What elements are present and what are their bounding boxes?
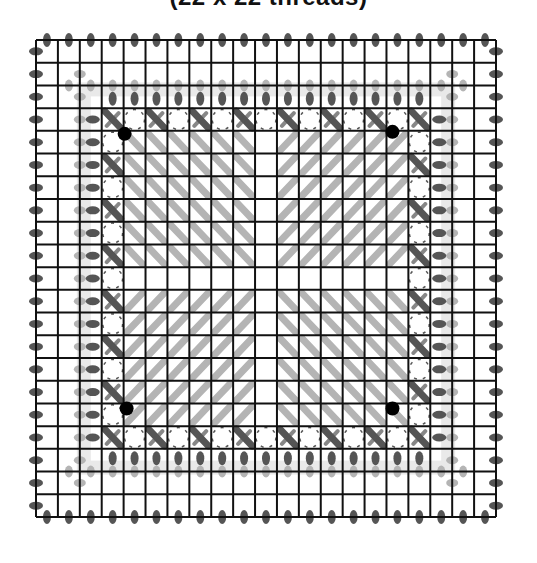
tent-stitch bbox=[170, 384, 186, 401]
band-stitch bbox=[306, 92, 314, 106]
tent-stitch bbox=[302, 157, 318, 174]
open-hole bbox=[409, 132, 429, 152]
tent-stitch bbox=[324, 202, 340, 219]
tent-stitch bbox=[346, 406, 362, 423]
band-stitch bbox=[432, 343, 446, 351]
band-stitch bbox=[131, 451, 139, 465]
open-hole bbox=[103, 178, 123, 198]
open-hole bbox=[344, 110, 364, 130]
tent-stitch bbox=[149, 361, 165, 378]
tent-stitch bbox=[346, 384, 362, 401]
tent-stitch bbox=[368, 225, 384, 242]
band-stitch bbox=[86, 116, 100, 124]
open-hole bbox=[103, 359, 123, 379]
corner-dot-bottom-left bbox=[120, 401, 134, 415]
band-stitch bbox=[109, 451, 117, 465]
tent-stitch bbox=[170, 338, 186, 355]
tent-stitch bbox=[389, 316, 405, 333]
band-stitch bbox=[350, 451, 358, 465]
open-hole bbox=[168, 428, 188, 448]
open-hole bbox=[409, 359, 429, 379]
band-stitch bbox=[131, 92, 139, 106]
tent-stitch bbox=[192, 202, 208, 219]
tent-stitch bbox=[389, 157, 405, 174]
dark-stitches bbox=[29, 33, 503, 524]
stitch-diagram bbox=[0, 0, 537, 563]
band-stitch bbox=[86, 275, 100, 283]
tent-stitch bbox=[149, 384, 165, 401]
open-hole bbox=[409, 314, 429, 334]
band-stitch bbox=[86, 252, 100, 260]
corner-dot-top-right bbox=[385, 125, 399, 139]
tent-stitch bbox=[368, 338, 384, 355]
tent-stitch bbox=[389, 293, 405, 310]
corner-dot-top-left bbox=[118, 127, 132, 141]
tent-stitch bbox=[302, 406, 318, 423]
band-stitch bbox=[432, 161, 446, 169]
tent-stitch bbox=[214, 406, 230, 423]
tent-stitch bbox=[302, 202, 318, 219]
open-hole bbox=[103, 314, 123, 334]
tent-stitch bbox=[170, 316, 186, 333]
tent-stitch bbox=[127, 293, 143, 310]
band-stitch bbox=[152, 451, 160, 465]
tent-stitch bbox=[214, 225, 230, 242]
tent-stitch bbox=[214, 384, 230, 401]
tent-stitch bbox=[149, 134, 165, 151]
tent-stitch bbox=[280, 406, 296, 423]
tent-stitch bbox=[127, 384, 143, 401]
tent-stitch bbox=[149, 157, 165, 174]
tent-stitch bbox=[389, 338, 405, 355]
band-stitch bbox=[86, 343, 100, 351]
corner-dot-bottom-right bbox=[385, 401, 399, 415]
tent-stitch bbox=[127, 202, 143, 219]
tent-stitch bbox=[368, 361, 384, 378]
tent-stitch bbox=[280, 361, 296, 378]
open-hole bbox=[409, 405, 429, 425]
tent-stitch bbox=[170, 247, 186, 264]
open-hole bbox=[103, 269, 123, 289]
band-stitch bbox=[262, 92, 270, 106]
tent-stitch bbox=[324, 134, 340, 151]
tent-stitch bbox=[236, 316, 252, 333]
tent-stitch bbox=[280, 338, 296, 355]
tent-stitch bbox=[324, 384, 340, 401]
band-stitch bbox=[393, 451, 401, 465]
tent-stitch bbox=[389, 202, 405, 219]
tent-stitch bbox=[127, 338, 143, 355]
tent-stitch bbox=[280, 134, 296, 151]
tent-stitch bbox=[346, 293, 362, 310]
tent-stitch bbox=[192, 247, 208, 264]
band-stitch bbox=[86, 206, 100, 214]
band-stitch bbox=[86, 434, 100, 442]
tent-stitch bbox=[346, 157, 362, 174]
tent-stitch bbox=[302, 179, 318, 196]
tent-stitch bbox=[346, 338, 362, 355]
tent-stitch bbox=[149, 338, 165, 355]
tent-stitch bbox=[302, 293, 318, 310]
tent-stitch bbox=[280, 316, 296, 333]
tent-stitch bbox=[368, 157, 384, 174]
band-stitch bbox=[372, 451, 380, 465]
tent-stitch bbox=[127, 179, 143, 196]
tent-stitch bbox=[192, 361, 208, 378]
tent-stitch bbox=[346, 225, 362, 242]
tent-stitch bbox=[368, 316, 384, 333]
band-stitch bbox=[432, 320, 446, 328]
tent-stitch bbox=[389, 384, 405, 401]
tent-stitch bbox=[192, 384, 208, 401]
band-stitch bbox=[432, 116, 446, 124]
band-stitch bbox=[240, 92, 248, 106]
band-stitch bbox=[86, 320, 100, 328]
tent-stitch bbox=[368, 202, 384, 219]
open-hole bbox=[256, 110, 276, 130]
tent-stitch bbox=[127, 316, 143, 333]
open-hole bbox=[409, 178, 429, 198]
open-hole bbox=[344, 428, 364, 448]
band-stitch bbox=[328, 92, 336, 106]
tent-stitch bbox=[346, 202, 362, 219]
band-stitch bbox=[328, 451, 336, 465]
band-stitch bbox=[415, 451, 423, 465]
band-stitch bbox=[350, 92, 358, 106]
tent-stitch bbox=[236, 179, 252, 196]
